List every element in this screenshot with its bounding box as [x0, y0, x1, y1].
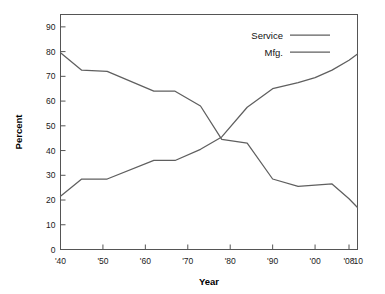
x-axis-title: Year — [199, 276, 219, 287]
x-tick-label: '90 — [267, 256, 278, 266]
legend-label-service: Service — [251, 30, 283, 41]
y-tick-label: 10 — [46, 220, 56, 230]
chart-legend: ServiceMfg. — [251, 30, 330, 58]
x-tick-label: '80 — [225, 256, 236, 266]
x-tick-label: '50 — [97, 256, 108, 266]
y-tick-label: 50 — [46, 121, 56, 131]
y-tick-label: 70 — [46, 71, 56, 81]
y-tick-label: 20 — [46, 195, 56, 205]
y-tick-label: 60 — [46, 96, 56, 106]
series-group — [61, 53, 358, 208]
x-tick-label: '70 — [182, 256, 193, 266]
x-axis: '40'50'60'70'80'90'00'08'10 — [55, 245, 363, 266]
x-tick-label: '40 — [55, 256, 66, 266]
y-axis-title: Percent — [13, 114, 24, 150]
y-tick-label: 30 — [46, 170, 56, 180]
x-tick-label: '10 — [352, 256, 363, 266]
x-tick-label: '00 — [310, 256, 321, 266]
legend-label-mfg: Mfg. — [265, 47, 283, 58]
x-tick-label: '60 — [140, 256, 151, 266]
y-tick-label: 0 — [51, 245, 56, 255]
chart-figure: 0102030405060708090 '40'50'60'70'80'90'0… — [0, 0, 385, 294]
y-tick-label: 90 — [46, 22, 56, 32]
y-tick-label: 40 — [46, 146, 56, 156]
y-tick-label: 80 — [46, 47, 56, 57]
series-line-service — [61, 54, 358, 196]
y-axis: 0102030405060708090 — [46, 22, 65, 255]
line-chart: 0102030405060708090 '40'50'60'70'80'90'0… — [0, 0, 385, 294]
series-line-mfg — [61, 53, 358, 208]
plot-frame — [61, 15, 358, 250]
